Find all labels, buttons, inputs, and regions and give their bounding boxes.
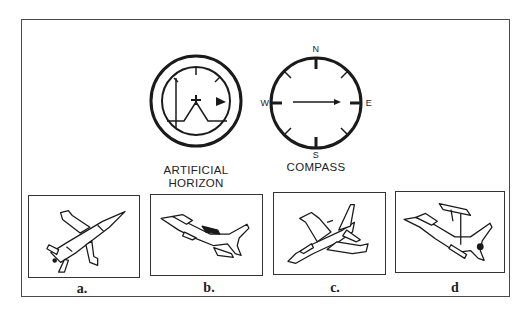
option-c-box[interactable]: [273, 192, 386, 275]
compass-north-label: N: [309, 43, 323, 56]
compass-east-label: E: [362, 97, 376, 110]
caption-line-2: HORIZON: [146, 177, 246, 190]
jet-perspective-view-icon: [274, 193, 385, 274]
jet-side-view-icon: [151, 195, 262, 275]
compass-icon: [271, 58, 361, 148]
artificial-horizon-caption: ARTIFICIAL HORIZON: [146, 164, 246, 190]
artificial-horizon-icon: [151, 56, 241, 146]
jet-banked-view-icon: [396, 192, 504, 272]
option-d-label: d: [440, 280, 470, 296]
option-b-box[interactable]: [150, 194, 263, 276]
option-a-box[interactable]: [28, 195, 140, 278]
compass-west-label: W: [258, 97, 272, 110]
option-c-label: c.: [320, 280, 350, 296]
option-d-box[interactable]: [395, 191, 505, 273]
caption-line-1: ARTIFICIAL: [146, 164, 246, 177]
jet-top-view-icon: [29, 196, 139, 277]
option-b-label: b.: [194, 280, 224, 296]
compass-caption: COMPASS: [276, 161, 356, 174]
option-a-label: a.: [67, 281, 97, 297]
